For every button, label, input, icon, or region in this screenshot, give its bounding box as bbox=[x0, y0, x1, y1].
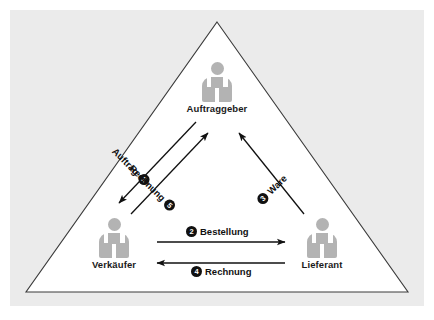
actor-label-lieferant: Lieferant bbox=[274, 259, 370, 270]
flow-label-rechnung-lieferant: 4 Rechnung bbox=[191, 266, 251, 277]
flow-label-bestellung: 2 Bestellung bbox=[186, 226, 249, 237]
flow-badge-bestellung: 2 bbox=[186, 226, 197, 237]
actor-label-auftraggeber: Auftraggeber bbox=[169, 103, 265, 114]
actor-verkaeufer: Verkäufer bbox=[66, 218, 162, 270]
flow-text-bestellung: Bestellung bbox=[200, 226, 249, 237]
flow-text-rechnung-lieferant: Rechnung bbox=[205, 266, 251, 277]
actor-auftraggeber: Auftraggeber bbox=[169, 62, 265, 114]
actor-label-verkaeufer: Verkäufer bbox=[66, 259, 162, 270]
actor-lieferant: Lieferant bbox=[274, 218, 370, 270]
person-icon bbox=[199, 62, 235, 102]
diagram-figure: Auftraggeber Verkäufer Lieferant Auftrag… bbox=[0, 0, 434, 320]
person-icon bbox=[304, 218, 340, 258]
flow-badge-rechnung-lieferant: 4 bbox=[191, 266, 202, 277]
person-icon bbox=[96, 218, 132, 258]
